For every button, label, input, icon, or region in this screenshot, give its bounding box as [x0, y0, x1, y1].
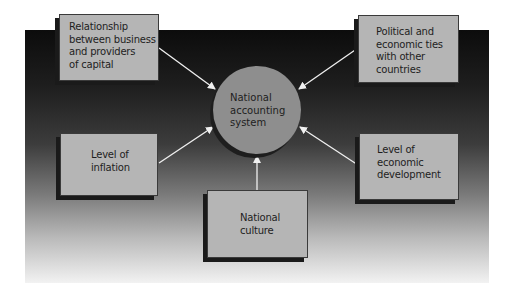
factor-box-culture: National culture: [207, 190, 308, 258]
center-label-line: accounting: [230, 105, 285, 118]
factor-box-political-ties: Political and economic ties with other c…: [358, 15, 459, 83]
factor-label-line: between business: [69, 34, 156, 47]
factor-label-line: Level of: [91, 149, 130, 162]
arrow-inflation-to-center: [159, 127, 213, 163]
arrow-development-to-center: [300, 127, 358, 165]
arrow-capital-to-center: [159, 48, 215, 89]
center-label-line: National: [230, 92, 285, 105]
factor-label-line: economic: [377, 157, 441, 170]
factor-box-capital-providers: Relationship between business and provid…: [59, 14, 159, 81]
factor-label-line: countries: [376, 64, 443, 77]
factor-label-line: Relationship: [69, 21, 156, 34]
arrow-political-to-center: [299, 48, 358, 89]
factor-label-line: of capital: [69, 59, 156, 72]
factor-label-line: and providers: [69, 46, 156, 59]
factor-label-line: with other: [376, 51, 443, 64]
factor-label-line: National: [240, 212, 280, 225]
center-node-national-accounting-system: National accounting system: [213, 66, 301, 154]
factor-label-line: Level of: [377, 144, 441, 157]
factor-label-line: culture: [240, 225, 280, 238]
center-label-line: system: [230, 117, 285, 130]
factor-box-inflation: Level of inflation: [60, 133, 158, 196]
factor-label-line: economic ties: [376, 39, 443, 52]
factor-box-economic-development: Level of economic development: [359, 133, 459, 200]
factor-label-line: Political and: [376, 26, 443, 39]
factor-label-line: inflation: [91, 162, 130, 175]
factor-label-line: development: [377, 169, 441, 182]
